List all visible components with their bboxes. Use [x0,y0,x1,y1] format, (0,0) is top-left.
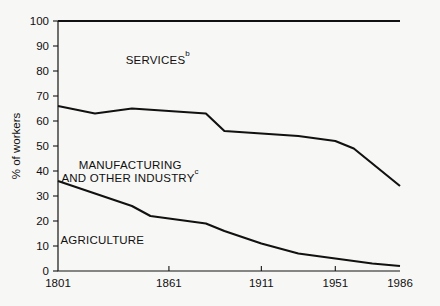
workforce-composition-chart: 0102030405060708090100180118611911195119… [0,0,440,306]
y-tick-label: 90 [36,40,49,52]
x-tick-label: 1801 [45,277,71,289]
plot-area: 0102030405060708090100180118611911195119… [10,15,413,289]
y-tick-label: 80 [36,65,49,77]
y-tick-label: 0 [43,265,49,277]
x-tick-label: 1986 [387,277,413,289]
x-tick-label: 1951 [323,277,349,289]
x-tick-label: 1861 [156,277,182,289]
y-tick-label: 20 [36,215,49,227]
x-tick-label: 1911 [249,277,274,289]
region-label-agriculture: AGRICULTURE [60,234,144,246]
region-label-services: SERVICESb [126,48,191,66]
y-axis-title: % of workers [10,113,22,180]
y-tick-label: 100 [30,15,49,27]
y-tick-label: 70 [36,90,49,102]
region-label-manufacturing: MANUFACTURINGAND OTHER INDUSTRYc [61,159,198,184]
y-tick-label: 60 [36,115,49,127]
y-tick-label: 30 [36,190,49,202]
chart-container: 0102030405060708090100180118611911195119… [0,0,440,306]
y-tick-label: 10 [36,240,49,252]
boundary-line-1 [58,181,400,266]
y-tick-label: 40 [36,165,49,177]
y-tick-label: 50 [36,140,49,152]
